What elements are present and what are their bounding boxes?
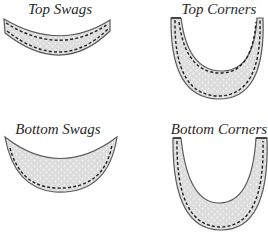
diagram-canvas — [0, 0, 268, 232]
bottom-swags-label: Bottom Swags — [15, 122, 100, 137]
top-swags-shape — [4, 19, 110, 55]
bottom-swags-shape — [5, 137, 117, 192]
bottom-corners-shape — [173, 138, 267, 230]
top-swags-label: Top Swags — [28, 2, 92, 17]
top-corners-shape — [171, 18, 263, 99]
bottom-corners-label: Bottom Corners — [171, 122, 267, 137]
top-corners-label: Top Corners — [182, 2, 257, 17]
